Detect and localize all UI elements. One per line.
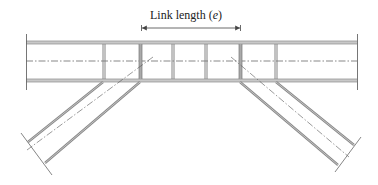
right-brace [231, 57, 361, 172]
right-brace-end-cap [335, 137, 361, 172]
stiffener [239, 44, 242, 79]
stiffener [275, 44, 277, 79]
link-dimension-arrow [142, 25, 241, 31]
beam [26, 34, 358, 90]
stiffener [205, 44, 207, 79]
right-brace-centerline [231, 57, 349, 157]
ebf-diagram [0, 0, 378, 185]
left-brace [21, 57, 153, 175]
stiffener [172, 44, 174, 79]
stiffener [103, 44, 105, 79]
left-brace-centerline [27, 57, 153, 150]
left-brace-end-cap [21, 133, 52, 175]
stiffener [139, 44, 142, 79]
